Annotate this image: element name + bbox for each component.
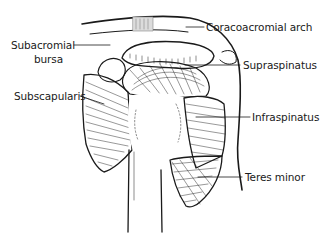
label-subscapularis: Subscapularis bbox=[14, 89, 86, 103]
label-coracoacromial-arch: Coracoacromial arch bbox=[206, 20, 312, 34]
label-teres-minor: Teres minor bbox=[245, 170, 305, 184]
label-infraspinatus: Infraspinatus bbox=[252, 110, 319, 124]
humerus-shaft-left bbox=[128, 150, 129, 232]
label-supraspinatus: Supraspinatus bbox=[243, 58, 317, 72]
label-subacromial-bursa-line2: bursa bbox=[3, 52, 63, 66]
subacromial-bursa-outline bbox=[98, 59, 125, 82]
label-subacromial-bursa-line1: Subacromial bbox=[3, 38, 75, 52]
humerus-shaft-right bbox=[161, 170, 162, 232]
